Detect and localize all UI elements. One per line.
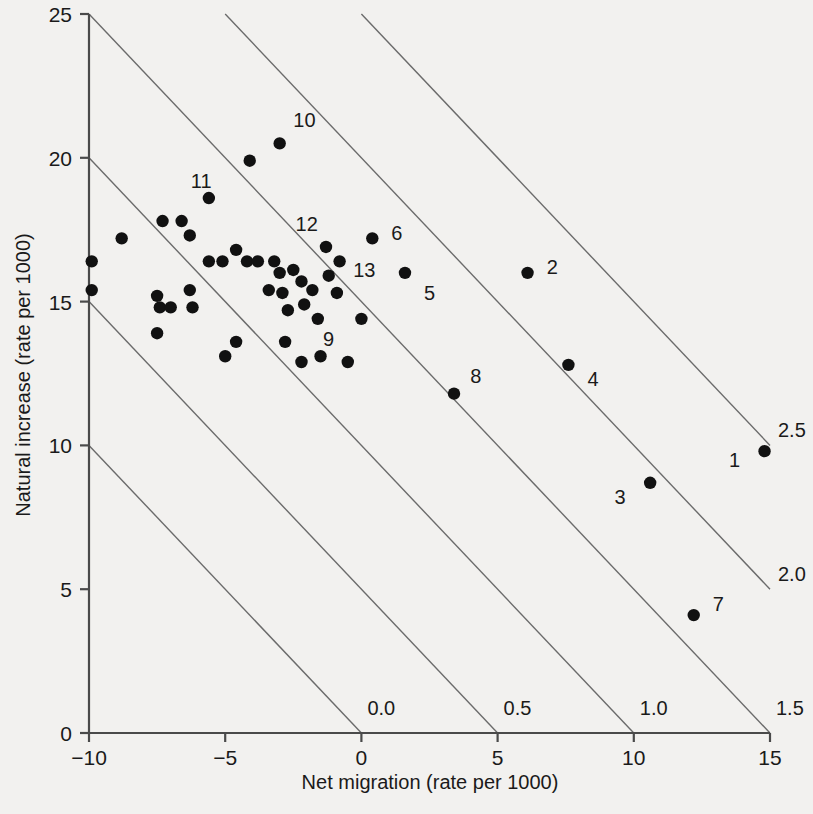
contour-label-1-0: 1.0: [640, 697, 668, 719]
data-point: [86, 255, 98, 267]
y-tick-label: 15: [49, 291, 72, 314]
data-point: [203, 192, 215, 204]
point-label-4: 4: [587, 368, 598, 390]
data-point: [314, 350, 326, 362]
scatter-plot: −10−50510150510152025 12345678910111213 …: [0, 0, 813, 814]
point-label-6: 6: [391, 222, 402, 244]
point-labels-group: 12345678910111213: [191, 109, 740, 614]
data-point: [184, 284, 196, 296]
data-point: [282, 304, 294, 316]
data-point: [252, 255, 264, 267]
x-axis-title: Net migration (rate per 1000): [302, 771, 559, 793]
data-point-5: [399, 267, 411, 279]
data-point: [156, 215, 168, 227]
contour-labels-group: 0.00.51.01.52.02.5: [367, 419, 805, 719]
data-point: [273, 267, 285, 279]
x-tick-label: −5: [213, 746, 237, 769]
contour-line-0-0: [89, 445, 361, 733]
point-label-12: 12: [296, 213, 318, 235]
data-point-6: [366, 232, 378, 244]
data-point: [342, 356, 354, 368]
data-point-2: [521, 267, 533, 279]
data-point: [186, 301, 198, 313]
data-point: [331, 287, 343, 299]
x-tick-label: −10: [71, 746, 107, 769]
contour-line-2-5: [361, 14, 770, 445]
data-point: [279, 336, 291, 348]
contour-label-1-5: 1.5: [776, 697, 804, 719]
y-tick-label: 5: [60, 578, 72, 601]
data-point: [263, 284, 275, 296]
data-point: [276, 287, 288, 299]
y-tick-label: 20: [49, 147, 72, 170]
data-point-3: [644, 477, 656, 489]
data-point-8: [448, 387, 460, 399]
data-point: [230, 336, 242, 348]
data-point-12: [320, 241, 332, 253]
data-point: [306, 284, 318, 296]
data-point: [184, 229, 196, 241]
x-tick-label: 5: [492, 746, 504, 769]
contour-label-0-5: 0.5: [504, 697, 532, 719]
contour-line-1-5: [89, 14, 770, 733]
data-point-11: [244, 154, 256, 166]
data-point: [230, 244, 242, 256]
data-point: [219, 350, 231, 362]
tick-labels-group: −10−50510150510152025: [49, 3, 782, 769]
data-point: [323, 270, 335, 282]
y-tick-label: 0: [60, 722, 72, 745]
point-label-8: 8: [470, 365, 481, 387]
data-point-10: [273, 137, 285, 149]
data-point: [268, 255, 280, 267]
x-tick-label: 15: [758, 746, 781, 769]
data-point: [175, 215, 187, 227]
data-point: [151, 327, 163, 339]
tick-marks-group: [80, 14, 770, 742]
data-point: [295, 275, 307, 287]
data-point-4: [562, 359, 574, 371]
data-point: [151, 290, 163, 302]
data-point: [115, 232, 127, 244]
data-point: [154, 301, 166, 313]
x-tick-label: 0: [356, 746, 368, 769]
point-label-1: 1: [729, 449, 740, 471]
chart-page: −10−50510150510152025 12345678910111213 …: [0, 0, 813, 814]
data-point: [287, 264, 299, 276]
y-axis-title: Natural increase (rate per 1000): [12, 233, 34, 516]
contour-label-2-0: 2.0: [778, 563, 806, 585]
data-point: [312, 313, 324, 325]
point-label-2: 2: [547, 256, 558, 278]
point-label-11: 11: [191, 170, 212, 192]
data-point-1: [758, 445, 770, 457]
y-tick-label: 25: [49, 3, 72, 26]
point-label-7: 7: [713, 593, 724, 615]
data-point-9: [355, 313, 367, 325]
contour-label-0-0: 0.0: [367, 697, 395, 719]
data-point: [203, 255, 215, 267]
point-label-13: 13: [353, 259, 375, 281]
data-point: [241, 255, 253, 267]
y-tick-label: 10: [49, 434, 72, 457]
data-point: [165, 301, 177, 313]
data-point: [298, 298, 310, 310]
contour-lines-group: [89, 14, 770, 733]
data-points-group: [86, 137, 771, 621]
contour-label-2-5: 2.5: [778, 419, 806, 441]
point-label-9: 9: [323, 328, 334, 350]
data-point-7: [688, 609, 700, 621]
data-point: [216, 255, 228, 267]
x-tick-label: 10: [622, 746, 645, 769]
point-label-10: 10: [293, 109, 315, 131]
point-label-3: 3: [615, 486, 626, 508]
contour-line-0-5: [89, 302, 498, 733]
point-label-5: 5: [424, 282, 435, 304]
data-point: [295, 356, 307, 368]
data-point: [86, 284, 98, 296]
contour-line-1-0: [89, 158, 634, 733]
data-point-13: [333, 255, 345, 267]
